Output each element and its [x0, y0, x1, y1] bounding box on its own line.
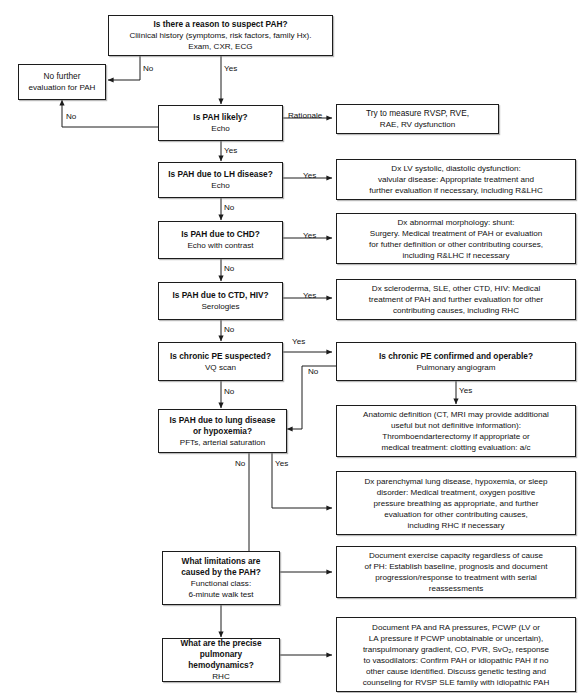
edge-label-likely-rationale: Rationale — [288, 111, 322, 120]
node-hemodynamics-action-line5: other cause identified. Discuss genetic … — [366, 666, 546, 677]
node-lh-disease-action-line1: Dx LV systolic, diastolic dysfunction: — [391, 163, 520, 174]
node-hemodynamics-line3: RHC — [212, 671, 230, 682]
node-lh-disease-action-line3: further evaluation if necessary, includi… — [369, 185, 543, 196]
edge-label-pe-no: No — [224, 387, 234, 396]
node-chronic-pe-suspected-title: Is chronic PE suspected? — [170, 351, 271, 362]
node-anatomic-definition-line1: Anatomic definition (CT, MRI may provide… — [363, 409, 549, 420]
edge-label-operable-yes: Yes — [459, 386, 472, 395]
node-parenchymal-action-line4: evaluation for other contributing causes… — [384, 509, 528, 520]
node-lung-disease-title2: or hypoxemia? — [193, 426, 252, 437]
node-anatomic-definition-line3: Thromboendarterectomy if appropriate or — [382, 431, 530, 442]
node-ctd-hiv[interactable]: Is PAH due to CTD, HIV? Serologies — [158, 282, 283, 320]
edge-label-ctd-no: No — [224, 325, 234, 334]
node-chronic-pe-suspected-line2: VQ scan — [205, 362, 236, 373]
node-parenchymal-action-line3: pressure breathing as appropriate, and f… — [373, 498, 538, 509]
node-chronic-pe-suspected[interactable]: Is chronic PE suspected? VQ scan — [158, 342, 283, 381]
node-hemodynamics-action-line4: to vasodilators: Confirm PAH or idiopath… — [363, 655, 548, 666]
node-anatomic-definition-line2: useful but not definitive information): — [391, 420, 521, 431]
node-chd-action[interactable]: Dx abnormal morphology: shunt: Surgery. … — [336, 213, 576, 264]
node-limitations-action-line3: progression/response to treatment with s… — [375, 572, 537, 583]
node-hemodynamics-action-line1: Document PA and RA pressures, PCWP (LV o… — [372, 622, 540, 633]
node-chd[interactable]: Is PAH due to CHD? Echo with contrast — [158, 221, 283, 259]
node-ctd-hiv-line2: Serologies — [201, 301, 239, 312]
node-ctd-hiv-title: Is PAH due to CTD, HIV? — [172, 290, 268, 301]
node-chronic-pe-operable-line2: Pulmonary angiogram — [416, 362, 495, 373]
edge-label-likely-no: No — [66, 112, 76, 121]
node-anatomic-definition[interactable]: Anatomic definition (CT, MRI may provide… — [336, 405, 576, 457]
node-parenchymal-action[interactable]: Dx parenchymal lung disease, hypoxemia, … — [336, 471, 576, 535]
edge-label-lung-no: No — [235, 459, 245, 468]
node-no-further-eval[interactable]: No further evaluation for PAH — [18, 64, 106, 100]
edge-label-lung-yes: Yes — [275, 459, 288, 468]
edge-label-likely-yes: Yes — [224, 146, 237, 155]
node-limitations-action-line4: reassessments — [429, 583, 483, 594]
node-chd-action-line2: Surgery. Medical treatment of PAH or eva… — [370, 228, 542, 239]
node-no-further-eval-line1: No further — [44, 71, 81, 82]
node-lh-disease-line2: Echo — [211, 180, 229, 191]
node-hemodynamics-action-line6: counseling for RVSP SLE family with idio… — [363, 677, 550, 688]
node-ctd-hiv-action[interactable]: Dx scleroderma, SLE, other CTD, HIV: Med… — [336, 279, 576, 320]
node-lh-disease-action[interactable]: Dx LV systolic, diastolic dysfunction: v… — [336, 159, 576, 200]
node-hemodynamics-action-line2: LA pressure if PCWP unobtainable or unce… — [369, 633, 543, 644]
node-lh-disease-action-line2: valvular disease: Appropriate treatment … — [378, 174, 534, 185]
edge-label-chd-yes: Yes — [303, 231, 316, 240]
node-limitations-line4: 6-minute walk test — [188, 589, 253, 600]
node-pah-likely-line2: Echo — [211, 123, 229, 134]
node-no-further-eval-line2: evaluation for PAH — [29, 82, 96, 93]
node-suspect-pah-title: Is there a reason to suspect PAH? — [153, 19, 287, 30]
node-lung-disease-title1: Is PAH due to lung disease — [170, 415, 276, 426]
node-limitations-title1: What limitations are — [182, 556, 261, 567]
node-hemodynamics-action-line3: transpulmonary gradient, CO, PVR, SvO₂, … — [363, 644, 549, 655]
node-limitations-action-line2: of PH: Establish baseline, prognosis and… — [364, 561, 547, 572]
node-suspect-pah-line2: Cliinical history (symptoms, risk factor… — [129, 30, 311, 41]
node-anatomic-definition-line4: medical treatment: clotting evaluation: … — [382, 442, 531, 453]
node-lh-disease-title: Is PAH due to LH disease? — [168, 169, 273, 180]
node-rvsp-measure-line1: Try to measure RVSP, RVE, — [366, 108, 469, 119]
node-limitations-title2: caused by the PAH? — [181, 567, 261, 578]
edge-label-lh-no: No — [224, 203, 234, 212]
node-lung-disease-line3: PFTs, arterial saturation — [180, 437, 265, 448]
edge-likely-no — [62, 100, 158, 127]
node-rvsp-measure[interactable]: Try to measure RVSP, RVE, RAE, RV dysfun… — [336, 104, 499, 134]
node-suspect-pah[interactable]: Is there a reason to suspect PAH? Cliini… — [108, 15, 333, 56]
edge-label-suspect-yes: Yes — [224, 64, 237, 73]
node-pah-likely[interactable]: Is PAH likely? Echo — [158, 105, 283, 141]
node-limitations-line3: Functional class: — [191, 578, 251, 589]
node-chd-title: Is PAH due to CHD? — [181, 229, 260, 240]
flowchart-canvas: Is there a reason to suspect PAH? Cliini… — [0, 0, 580, 693]
edge-label-ctd-yes: Yes — [303, 291, 316, 300]
node-chronic-pe-operable-title: Is chronic PE confirmed and operable? — [379, 351, 533, 362]
node-ctd-hiv-action-line2: treatment of PAH and further evaluation … — [369, 294, 543, 305]
node-hemodynamics-title1: What are the precise — [180, 638, 261, 649]
node-chd-action-line4: including R&LHC if necessary — [402, 250, 509, 261]
node-limitations[interactable]: What limitations are caused by the PAH? … — [162, 551, 280, 605]
edge-label-chd-no: No — [224, 264, 234, 273]
node-hemodynamics-title2: pulmonary hemodynamics? — [167, 649, 275, 671]
node-parenchymal-action-line1: Dx parenchymal lung disease, hypoxemia, … — [364, 476, 547, 487]
node-limitations-action-line1: Document exercise capacity regardless of… — [369, 550, 543, 561]
node-lh-disease[interactable]: Is PAH due to LH disease? Echo — [158, 162, 283, 198]
node-chd-action-line3: for futher definition or other contribut… — [369, 239, 543, 250]
node-chronic-pe-operable[interactable]: Is chronic PE confirmed and operable? Pu… — [336, 342, 576, 381]
node-suspect-pah-line3: Exam, CXR, ECG — [188, 41, 252, 52]
node-hemodynamics[interactable]: What are the precise pulmonary hemodynam… — [162, 638, 280, 682]
edge-suspect-no — [108, 56, 140, 80]
node-parenchymal-action-line2: disorder: Medical treatment, oxygen posi… — [377, 487, 535, 498]
node-limitations-action[interactable]: Document exercise capacity regardless of… — [336, 546, 576, 598]
node-parenchymal-action-line5: including RHC if necessary — [407, 520, 504, 531]
node-chd-line2: Echo with contrast — [187, 240, 253, 251]
edge-label-operable-no: No — [308, 367, 318, 376]
node-lung-disease[interactable]: Is PAH due to lung disease or hypoxemia?… — [158, 409, 287, 453]
node-chd-action-line1: Dx abnormal morphology: shunt: — [398, 217, 515, 228]
node-ctd-hiv-action-line1: Dx scleroderma, SLE, other CTD, HIV: Med… — [372, 283, 540, 294]
node-hemodynamics-action[interactable]: Document PA and RA pressures, PCWP (LV o… — [336, 617, 576, 692]
node-rvsp-measure-line2: RAE, RV dysfunction — [380, 119, 455, 130]
edge-label-lh-yes: Yes — [303, 171, 316, 180]
edge-label-pe-yes: Yes — [292, 337, 305, 346]
edge-label-suspect-no: No — [143, 64, 153, 73]
node-pah-likely-title: Is PAH likely? — [193, 112, 247, 123]
node-ctd-hiv-action-line3: contributing causes, including RHC — [393, 305, 519, 316]
